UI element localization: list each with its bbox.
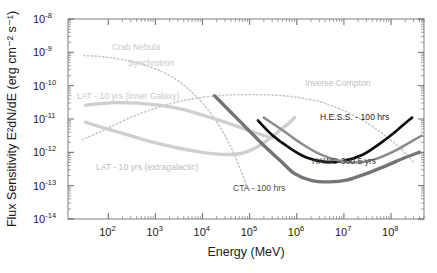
y-tick-label: 10-9 [33, 44, 52, 58]
curve-annotation-0: Crab Nebula [112, 42, 160, 52]
curve-annotation-6: HAWC-300 5 yrs [312, 156, 376, 166]
flux-sensitivity-figure: 10210310410510610710810-810-910-1010-111… [0, 0, 437, 273]
x-tick-label: 108 [382, 224, 398, 238]
x-axis-title: Energy (MeV) [207, 245, 284, 259]
y-tick-label: 10-14 [33, 211, 56, 225]
y-tick-label: 10-12 [33, 144, 56, 158]
x-tick-label: 106 [288, 224, 304, 238]
x-tick-label: 102 [99, 224, 115, 238]
curve-annotation-5: H.E.S.S. - 100 hrs [320, 112, 389, 122]
x-tick-label: 107 [335, 224, 351, 238]
x-tick-label: 104 [194, 224, 210, 238]
y-tick-label: 10-10 [33, 78, 56, 92]
x-tick-label: 103 [146, 224, 162, 238]
curve-annotation-4: LAT - 10 yrs (extragalactic) [96, 162, 198, 172]
x-tick-label: 105 [241, 224, 257, 238]
curve-annotation-1: Synchrotron [128, 58, 175, 68]
y-tick-label: 10-11 [33, 111, 56, 125]
plot-canvas: 10210310410510610710810-810-910-1010-111… [0, 0, 437, 273]
y-tick-label: 10-13 [33, 178, 56, 192]
curve-annotation-3: LAT - 10 yrs (inner Galaxy) [77, 91, 179, 101]
curve-annotation-2: Inverse Compton [305, 78, 371, 88]
y-tick-label: 10-8 [33, 11, 52, 25]
y-axis-title: Flux Sensitivity E²dN/dE (erg cm⁻² s⁻¹) [5, 11, 19, 227]
series-curve-2 [86, 103, 273, 138]
curve-annotation-7: CTA - 100 hrs [233, 183, 285, 193]
